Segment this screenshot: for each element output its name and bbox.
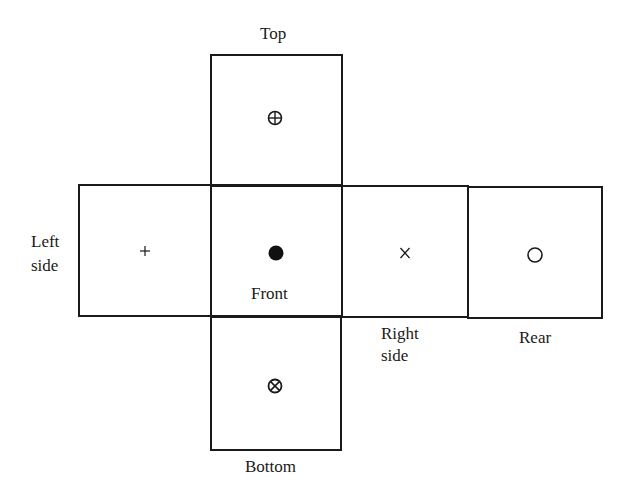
label-right-line1: Right [381, 324, 419, 344]
label-left-side: Left side [31, 232, 59, 276]
label-left-line1: Left [31, 232, 59, 252]
label-top: Top [260, 24, 286, 44]
filled-dot-icon [268, 245, 285, 262]
label-bottom: Bottom [245, 457, 296, 477]
label-right-line2: side [381, 346, 419, 366]
label-rear: Rear [519, 328, 551, 348]
circled-times-icon [267, 378, 283, 394]
plus-icon [139, 245, 151, 257]
label-right-side: Right side [381, 324, 419, 366]
label-front: Front [251, 284, 288, 304]
open-circle-icon [527, 247, 544, 264]
label-left-line2: side [31, 256, 59, 276]
cross-icon [399, 247, 411, 260]
circled-plus-icon [267, 110, 283, 126]
